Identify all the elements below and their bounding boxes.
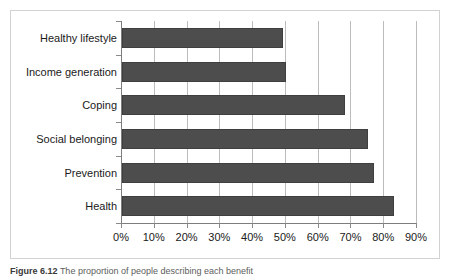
category-label: Health [0, 200, 117, 212]
x-tick-label-90: 90% [396, 231, 436, 243]
gridline-80 [383, 21, 384, 223]
gridline-60 [318, 21, 319, 223]
category-label: Prevention [0, 167, 117, 179]
category-label: Coping [0, 99, 117, 111]
gridline-30 [219, 21, 220, 223]
gridline-90 [416, 21, 417, 223]
y-tick [116, 21, 121, 22]
x-tick-20 [187, 223, 188, 228]
x-tick-60 [318, 223, 319, 228]
y-tick [116, 189, 121, 190]
bar [122, 28, 283, 48]
category-label: Healthy lifestyle [0, 32, 117, 44]
bar [122, 129, 368, 149]
y-tick [116, 122, 121, 123]
gridline-40 [252, 21, 253, 223]
bar [122, 196, 394, 216]
x-tick-40 [252, 223, 253, 228]
y-tick [116, 88, 121, 89]
gridline-50 [285, 21, 286, 223]
x-tick-30 [219, 223, 220, 228]
bar [122, 163, 374, 183]
figure-page: Healthy lifestyleIncome generationCoping… [0, 0, 452, 277]
x-tick-90 [416, 223, 417, 228]
category-label: Social belonging [0, 133, 117, 145]
x-tick-0 [121, 223, 122, 228]
x-tick-80 [383, 223, 384, 228]
gridline-10 [154, 21, 155, 223]
y-tick [116, 55, 121, 56]
x-tick-10 [154, 223, 155, 228]
gridline-20 [187, 21, 188, 223]
bar [122, 62, 286, 82]
caption-number: Figure 6.12 [10, 266, 58, 276]
x-tick-50 [285, 223, 286, 228]
plot-area [121, 21, 416, 223]
category-label: Income generation [0, 66, 117, 78]
y-axis-line [121, 21, 122, 223]
caption-body: The proportion of people describing each… [60, 266, 253, 276]
figure-frame: Healthy lifestyleIncome generationCoping… [10, 10, 440, 259]
x-axis-line [121, 223, 417, 224]
figure-caption: Figure 6.12 The proportion of people des… [10, 266, 442, 277]
y-tick [116, 156, 121, 157]
bar [122, 95, 345, 115]
x-tick-70 [350, 223, 351, 228]
bar-chart: Healthy lifestyleIncome generationCoping… [11, 11, 441, 260]
gridline-70 [350, 21, 351, 223]
